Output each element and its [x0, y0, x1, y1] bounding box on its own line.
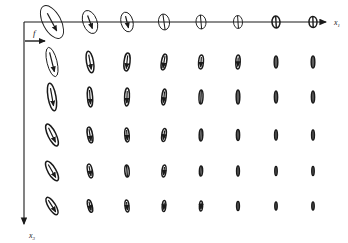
ellipse-marker [236, 130, 239, 141]
ellipse-marker [198, 55, 204, 69]
direction-arrow [163, 131, 164, 140]
ellipse-marker [87, 87, 94, 107]
ellipse-marker [161, 89, 167, 105]
ellipse-marker [160, 54, 168, 71]
ellipse-marker [124, 165, 129, 177]
ellipse-marker [123, 53, 131, 72]
ellipse-marker [236, 90, 240, 104]
direction-arrow [48, 200, 55, 212]
ellipse-marker [275, 130, 278, 140]
ellipse-marker [161, 128, 167, 141]
axes-group: x1 x3 [24, 18, 340, 241]
direction-arrow [89, 166, 91, 176]
x3-axis-label: x3 [28, 231, 36, 241]
direction-arrow [127, 202, 128, 210]
ellipse-marker [86, 127, 94, 144]
ellipse-marker [274, 56, 278, 68]
direction-tick [200, 15, 201, 29]
ellipse-marker [119, 11, 135, 33]
ellipse-marker [275, 202, 277, 210]
ellipse-marker [312, 130, 315, 140]
ellipse-marker [79, 8, 100, 35]
ellipse-marker [46, 83, 59, 112]
force-label: f [33, 28, 37, 38]
direction-arrow [126, 56, 127, 69]
ellipse-marker [44, 46, 61, 78]
ellipse-marker [199, 201, 203, 211]
ellipse-marker [43, 159, 61, 182]
ellipse-marker [275, 167, 277, 176]
direction-tick [127, 165, 128, 177]
ellipse-marker [43, 122, 61, 147]
direction-arrow [89, 55, 92, 70]
direction-arrow [127, 130, 128, 140]
ellipse-marker [86, 199, 93, 213]
force-annotation: f [25, 28, 45, 41]
ellipse-marker [85, 51, 96, 74]
direction-arrow [89, 129, 91, 141]
ellipse-marker [124, 200, 129, 212]
ellipse-marker [44, 196, 61, 217]
ellipse-marker [312, 167, 314, 176]
ellipse-marker [236, 55, 241, 69]
ellipse-field [36, 2, 318, 217]
ellipse-marker [199, 166, 203, 176]
ellipse-field-figure: x1 x3 f [0, 0, 348, 243]
ellipse-marker [124, 128, 129, 142]
ellipse-marker [162, 200, 166, 211]
direction-tick [238, 16, 239, 29]
direction-arrow [163, 56, 165, 68]
ellipse-marker [274, 91, 277, 103]
direction-arrow [163, 92, 164, 103]
direction-tick [276, 16, 277, 28]
ellipse-marker [237, 202, 240, 211]
ellipse-marker [311, 91, 314, 103]
direction-arrow [90, 90, 91, 104]
ellipse-marker [86, 164, 94, 179]
ellipse-marker [237, 166, 240, 176]
x1-axis-label: x1 [333, 18, 340, 28]
ellipse-marker [124, 88, 129, 106]
ellipse-marker [312, 202, 314, 210]
ellipse-marker [199, 129, 203, 141]
direction-arrow [164, 167, 165, 175]
ellipse-marker [161, 165, 166, 177]
direction-arrow [50, 88, 53, 106]
ellipse-marker [311, 56, 315, 68]
direction-arrow [201, 57, 202, 67]
direction-arrow [50, 52, 55, 71]
ellipse-marker [199, 90, 203, 104]
